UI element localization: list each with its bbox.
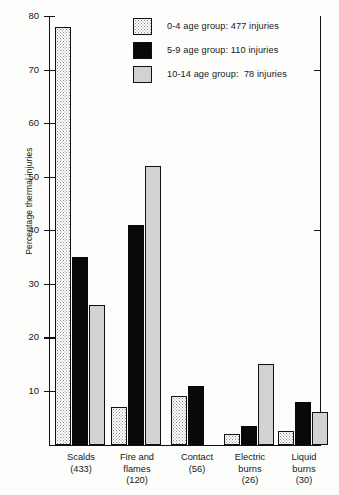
x-category-label: Fire and flames(120) [103, 452, 171, 487]
bar [241, 426, 257, 445]
y-axis-label: Percentage thermal injuries [24, 111, 34, 291]
y-tick-label: 30 [5, 279, 39, 289]
x-category-count: (30) [270, 475, 338, 487]
bar-chart: Percentage thermal injuries 102030405060… [0, 0, 339, 495]
y-tick-label: 50 [5, 172, 39, 182]
bar-group [55, 16, 107, 445]
x-category-label: Liquid burns(30) [270, 452, 338, 487]
x-category-name: Fire and flames [103, 452, 171, 475]
legend-swatch-light-grey [133, 66, 152, 83]
y-tick-label: 80 [5, 11, 39, 21]
legend-label: 10-14 age group: 78 injuries [167, 69, 287, 79]
bar [312, 412, 328, 444]
bar [72, 257, 88, 445]
bar [111, 407, 127, 445]
x-category-name: Liquid burns [270, 452, 338, 475]
y-tick-label: 10 [5, 386, 39, 396]
x-category-count: (120) [103, 475, 171, 487]
legend-swatch-dotted [133, 18, 152, 35]
legend-item: 0-4 age group: 477 injuries [133, 14, 311, 38]
bar [55, 27, 71, 445]
legend-label: 5-9 age group: 110 injuries [167, 45, 278, 55]
legend-item: 5-9 age group: 110 injuries [133, 38, 311, 62]
bar [278, 431, 294, 444]
y-tick-label: 60 [5, 118, 39, 128]
bar [89, 305, 105, 444]
bar [188, 386, 204, 445]
bar [171, 396, 187, 444]
bar [145, 166, 161, 445]
y-tick-label: 70 [5, 65, 39, 75]
y-tick-label: 20 [5, 332, 39, 342]
bar [295, 402, 311, 445]
x-axis-line [49, 445, 321, 446]
legend-label: 0-4 age group: 477 injuries [167, 21, 279, 31]
bar [258, 364, 274, 444]
bar [224, 434, 240, 445]
bar [128, 225, 144, 445]
chart-legend: 0-4 age group: 477 injuries5-9 age group… [133, 14, 311, 86]
legend-item: 10-14 age group: 78 injuries [133, 62, 311, 86]
legend-swatch-solid-black [133, 42, 152, 59]
y-tick-label: 40 [5, 225, 39, 235]
